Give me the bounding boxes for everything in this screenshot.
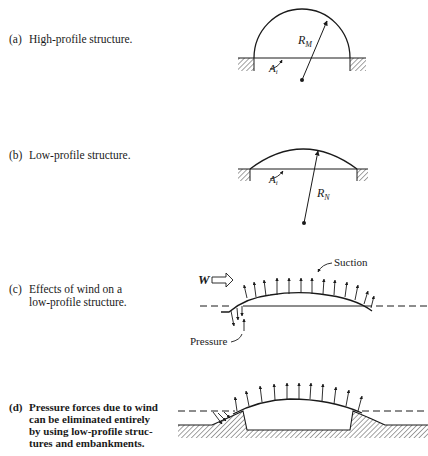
figure-d-embankment [178,383,428,438]
center-point [302,221,306,225]
center-point [300,78,304,82]
label-ai-b: Ai [268,173,278,187]
label-suction: Suction [334,256,368,268]
label-pressure: Pressure [190,335,227,347]
radius-arrow-rn [304,151,318,223]
label-wind: W [198,272,211,287]
figure-c-wind-effects [200,263,428,342]
pressure-leader [231,334,242,342]
dome-arc-low [250,149,357,169]
figure-b-low-profile [238,149,368,225]
ground-hatch-right [357,169,368,181]
suction-leader [318,263,332,272]
label-ai-a: Ai [268,62,278,76]
wind-arrow-icon [212,273,233,287]
label-rm: RM [297,33,313,49]
ground-hatch-left [238,169,250,181]
label-rn: RN [316,186,330,202]
diagram-canvas: RM Ai RN Ai [0,0,428,456]
roof-curve [221,293,372,312]
ground-hatch-right [350,58,366,71]
radius-arrow-rm [302,21,327,80]
ground-hatch-left [238,58,254,71]
dome-curve [233,399,362,414]
